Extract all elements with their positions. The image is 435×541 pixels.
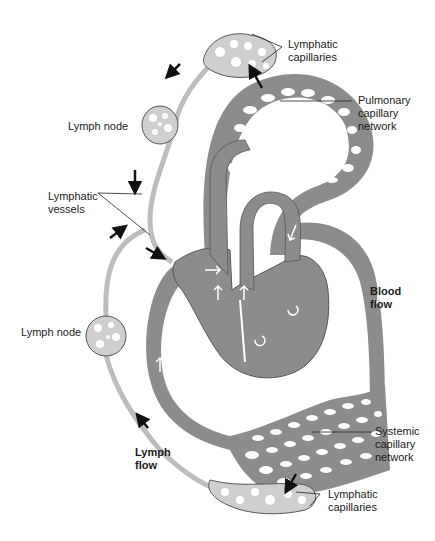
label-systemic-capillary-network: Systemic capillary network [375,425,420,464]
label-lymphatic-capillaries-bottom: Lymphatic capillaries [328,488,378,514]
lymph-node-bottom [86,316,126,356]
lymphatic-capillaries-bottom [209,480,316,514]
label-lymph-node-top: Lymph node [68,120,128,133]
circulation-diagram [0,0,435,541]
label-blood-flow: Blood flow [370,285,401,311]
label-pulmonary-capillary-network: Pulmonary capillary network [358,94,411,133]
label-lymphatic-capillaries-top: Lymphatic capillaries [288,38,338,64]
label-lymphatic-vessels: Lymphatic vessels [48,190,98,216]
lymphatic-capillaries-top [204,34,277,78]
label-lymph-flow: Lymph flow [135,446,171,472]
lymph-node-top [142,106,178,144]
label-lymph-node-bottom: Lymph node [21,326,81,339]
